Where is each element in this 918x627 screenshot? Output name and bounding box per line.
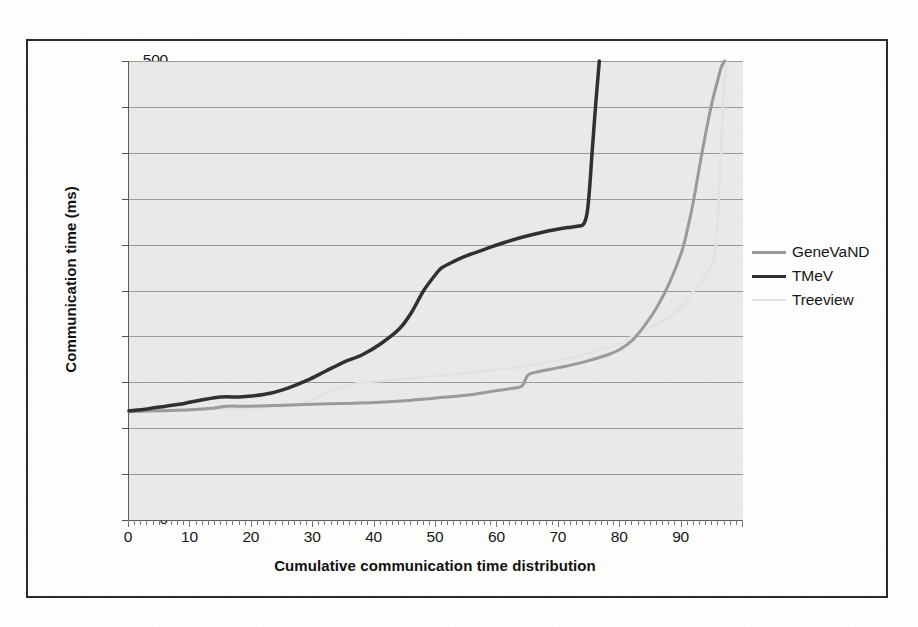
x-axis-minor-tick [466, 520, 467, 525]
x-axis-minor-tick [552, 520, 553, 525]
x-axis-minor-tick [478, 520, 479, 525]
x-axis-minor-tick [644, 520, 645, 525]
x-axis-minor-tick [435, 520, 436, 527]
x-axis-minor-tick [159, 520, 160, 525]
x-axis-minor-tick [662, 520, 663, 525]
x-axis-minor-tick [496, 520, 497, 527]
x-axis-minor-tick [625, 520, 626, 525]
x-axis-minor-tick [128, 520, 129, 527]
x-axis-minor-tick [251, 520, 252, 527]
x-axis-minor-tick [527, 520, 528, 525]
x-axis-minor-tick [257, 520, 258, 525]
series-line-tmev [129, 61, 599, 411]
x-axis-minor-tick [638, 520, 639, 525]
x-axis-minor-tick [724, 520, 725, 525]
x-axis-minor-tick [324, 520, 325, 525]
y-axis-title: Communication time (ms) [62, 90, 79, 470]
x-axis-minor-tick [146, 520, 147, 525]
x-axis-minor-tick [582, 520, 583, 525]
x-axis-minor-tick [564, 520, 565, 525]
x-axis-minor-tick [429, 520, 430, 525]
x-axis-tick-label: 40 [354, 528, 394, 546]
x-axis-minor-tick [460, 520, 461, 525]
x-axis-minor-tick [288, 520, 289, 525]
legend-swatch-icon [752, 251, 786, 254]
x-axis-minor-tick [631, 520, 632, 525]
x-axis-minor-tick [711, 520, 712, 525]
legend-label: TMeV [792, 267, 833, 285]
x-axis-minor-tick [453, 520, 454, 525]
x-axis-minor-tick [331, 520, 332, 525]
legend-item-treeview[interactable]: Treeview [752, 288, 902, 312]
x-axis-minor-tick [208, 520, 209, 525]
x-axis-tick-label: 30 [292, 528, 332, 546]
x-axis-minor-tick [417, 520, 418, 525]
x-axis-minor-tick [153, 520, 154, 525]
x-axis-minor-tick [607, 520, 608, 525]
x-axis-minor-tick [355, 520, 356, 525]
x-axis-minor-tick [300, 520, 301, 525]
legend-label: GeneVaND [792, 243, 869, 261]
x-axis-minor-tick [521, 520, 522, 525]
x-axis-minor-tick [202, 520, 203, 525]
x-axis-minor-tick [337, 520, 338, 525]
x-axis-minor-tick [349, 520, 350, 525]
x-axis-minor-ticks [128, 520, 742, 527]
x-axis-minor-tick [239, 520, 240, 525]
series-line-genevand [129, 61, 725, 412]
legend-swatch-icon [752, 299, 786, 301]
x-axis-minor-tick [533, 520, 534, 525]
x-axis-minor-tick [183, 520, 184, 525]
x-axis-minor-tick [717, 520, 718, 525]
x-axis-minor-tick [674, 520, 675, 525]
x-axis-minor-tick [275, 520, 276, 525]
x-axis-tick-label: 0 [108, 528, 148, 546]
chart-area: 050100150200250300350400450500 010203040… [28, 41, 890, 600]
x-axis-minor-tick [490, 520, 491, 525]
x-axis-minor-tick [472, 520, 473, 525]
x-axis-minor-tick [589, 520, 590, 525]
x-axis-tick-label: 20 [231, 528, 271, 546]
x-axis-tick-label: 90 [661, 528, 701, 546]
x-axis-minor-tick [269, 520, 270, 525]
x-axis-minor-tick [650, 520, 651, 525]
x-axis-minor-tick [306, 520, 307, 525]
x-axis-minor-tick [699, 520, 700, 525]
x-axis-minor-tick [595, 520, 596, 525]
x-axis-minor-tick [601, 520, 602, 525]
x-axis-minor-tick [484, 520, 485, 525]
x-axis-minor-tick [447, 520, 448, 525]
x-axis-minor-tick [539, 520, 540, 525]
x-axis-minor-tick [619, 520, 620, 527]
series-line-treeview [129, 61, 726, 412]
x-axis-minor-tick [214, 520, 215, 525]
x-axis-tick-label: 50 [415, 528, 455, 546]
x-axis-minor-tick [558, 520, 559, 527]
x-axis-minor-tick [392, 520, 393, 525]
x-axis-minor-tick [681, 520, 682, 527]
x-axis-minor-tick [693, 520, 694, 525]
x-axis-minor-tick [503, 520, 504, 525]
x-axis-minor-tick [177, 520, 178, 525]
figure-frame: 050100150200250300350400450500 010203040… [26, 39, 888, 598]
x-axis-minor-tick [165, 520, 166, 525]
x-axis-minor-tick [386, 520, 387, 525]
x-axis-minor-tick [367, 520, 368, 525]
x-axis-minor-tick [515, 520, 516, 525]
x-axis-tick-label: 80 [599, 528, 639, 546]
x-axis-tick-label: 10 [169, 528, 209, 546]
x-axis-minor-tick [232, 520, 233, 525]
chart-legend: GeneVaNDTMeVTreeview [752, 240, 902, 312]
x-axis-minor-tick [134, 520, 135, 525]
legend-swatch-icon [752, 275, 786, 278]
legend-label: Treeview [792, 291, 854, 309]
x-axis-minor-tick [398, 520, 399, 525]
x-axis-minor-tick [318, 520, 319, 525]
legend-item-genevand[interactable]: GeneVaND [752, 240, 902, 264]
x-axis-minor-tick [220, 520, 221, 525]
x-axis-minor-tick [613, 520, 614, 525]
x-axis-minor-tick [736, 520, 737, 525]
x-axis-minor-tick [705, 520, 706, 525]
x-axis-minor-tick [668, 520, 669, 525]
legend-item-tmev[interactable]: TMeV [752, 264, 902, 288]
